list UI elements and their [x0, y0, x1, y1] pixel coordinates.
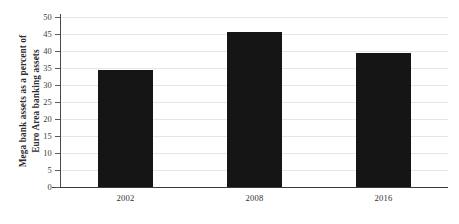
- y-tick-mark: [55, 153, 60, 154]
- y-axis-line: [60, 14, 61, 188]
- x-axis-line: [52, 187, 448, 189]
- y-tick-mark: [55, 170, 60, 171]
- y-tick-label: 35: [33, 64, 52, 73]
- plot-area: [61, 17, 448, 187]
- bar-chart: Mega bank assets as a percent of Euro Ar…: [0, 0, 459, 224]
- y-tick-label: 5: [33, 166, 52, 175]
- y-tick-label: 40: [33, 47, 52, 56]
- y-tick-mark: [55, 34, 60, 35]
- y-tick-mark: [55, 68, 60, 69]
- y-tick-label: 50: [33, 13, 52, 22]
- gridline: [61, 17, 448, 18]
- bar-2002: [98, 70, 153, 187]
- y-tick-label: 25: [33, 98, 52, 107]
- x-tick-label-2002: 2002: [117, 193, 135, 203]
- y-tick-mark: [55, 119, 60, 120]
- y-axis-title-line-1: Mega bank assets as a percent of: [17, 35, 30, 168]
- y-tick-mark: [55, 17, 60, 18]
- y-tick-mark: [55, 136, 60, 137]
- y-tick-label: 30: [33, 81, 52, 90]
- y-tick-mark: [55, 102, 60, 103]
- y-tick-mark: [55, 51, 60, 52]
- y-tick-mark: [55, 85, 60, 86]
- x-tick-label-2016: 2016: [375, 193, 393, 203]
- y-tick-label: 0: [33, 183, 52, 192]
- bar-2008: [227, 32, 282, 187]
- y-tick-label: 20: [33, 115, 52, 124]
- x-tick-label-2008: 2008: [246, 193, 264, 203]
- y-tick-mark: [55, 187, 60, 188]
- y-tick-label: 45: [33, 30, 52, 39]
- y-tick-label: 10: [33, 149, 52, 158]
- y-tick-label: 15: [33, 132, 52, 141]
- bar-2016: [356, 53, 411, 187]
